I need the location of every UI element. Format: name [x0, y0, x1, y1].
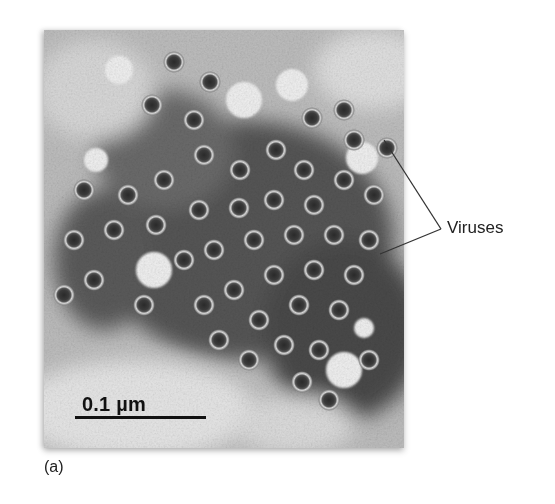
- callout-pointer-lines: [0, 0, 555, 504]
- panel-label: (a): [44, 458, 64, 476]
- figure: 0.1 µm Viruses (a): [0, 0, 555, 504]
- viruses-callout-label: Viruses: [447, 218, 503, 238]
